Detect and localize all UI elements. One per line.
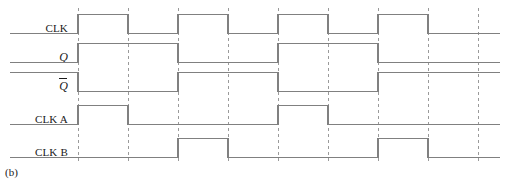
timing-diagram-figure: CLK Q Q CLK A CLK B (b) — [0, 0, 512, 185]
waveform-qbar — [10, 73, 500, 92]
waveform-clk — [10, 15, 500, 34]
waveform-clk-b — [10, 139, 500, 158]
waveform-q — [10, 44, 500, 63]
figure-caption: (b) — [5, 166, 18, 178]
waveforms-group — [10, 15, 500, 158]
waveform-clk-a — [10, 106, 500, 125]
waveform-canvas — [0, 0, 512, 185]
